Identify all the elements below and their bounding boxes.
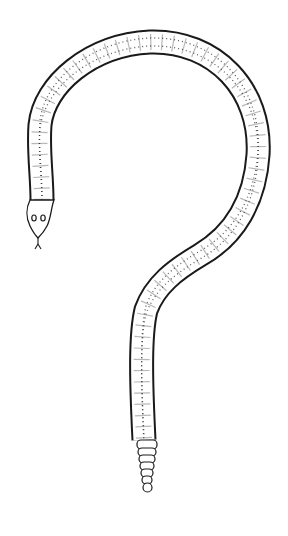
snake-head: [27, 200, 54, 249]
snake-question-mark-illustration: [0, 0, 288, 536]
illustration-canvas: Line drawing of a rattlesnake curved int…: [0, 0, 288, 536]
forked-tongue: [35, 238, 41, 249]
snake-rattle: [137, 440, 157, 492]
snake-body: [39, 38, 258, 444]
